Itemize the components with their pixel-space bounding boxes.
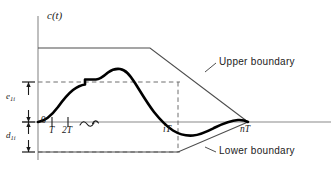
lower-boundary-leader [205,147,216,152]
plot-svg [0,0,333,169]
zero-label: 0 [41,115,46,125]
level-label-d1i: d1i [6,131,16,141]
axis-group [22,16,331,160]
upper-boundary-line [38,48,248,122]
x-tick-label-2T: 2T [62,126,72,136]
upper-boundary-leader [205,63,216,72]
y-tick-marks [22,82,35,152]
x-tick-label-iT: iT [163,125,171,135]
figure-canvas: c(t) 0 e1i d1i T 2T iT nT Upper boundary… [0,0,333,169]
level-label-e1i: e1i [6,92,15,102]
y-axis-label: c(t) [47,10,62,21]
upper-boundary-annotation: Upper boundary [219,57,295,67]
x-tick-label-T: T [49,126,54,136]
x-tick-label-nT: nT [240,125,250,135]
lower-boundary-annotation: Lower boundary [219,146,295,156]
